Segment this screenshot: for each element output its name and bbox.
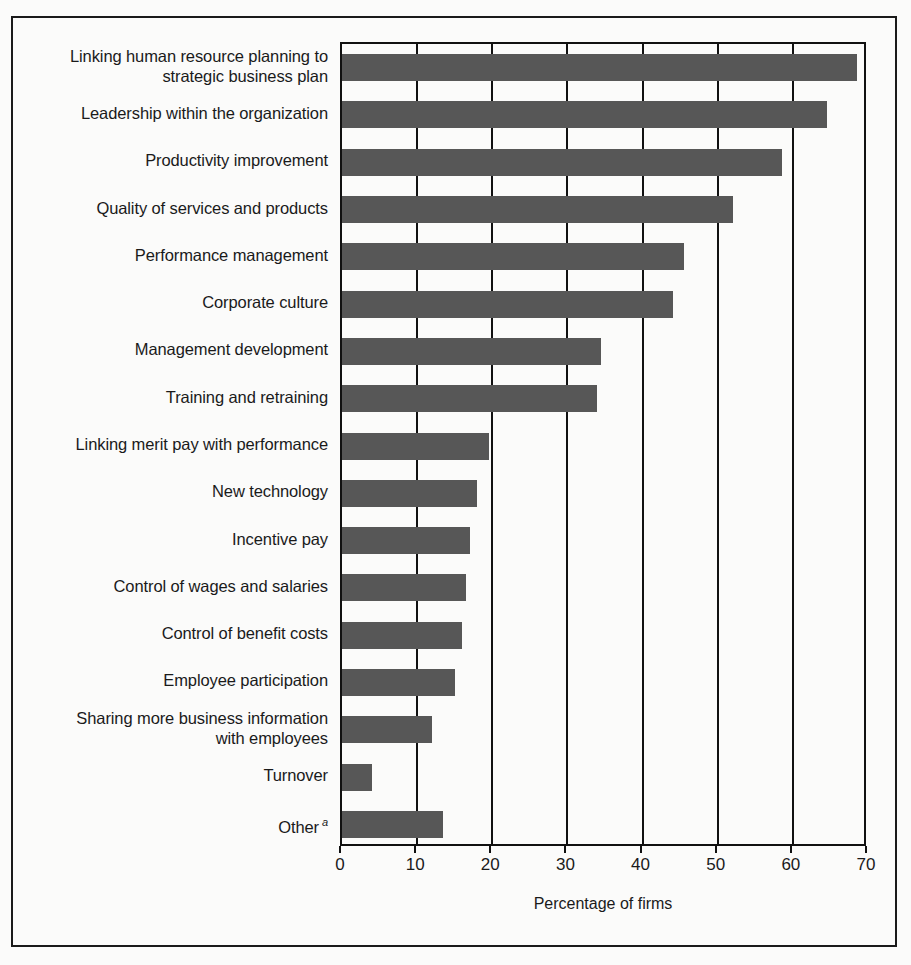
category-label: Sharing more business informationwith em…	[18, 708, 328, 748]
plot-area	[340, 42, 866, 846]
x-axis: 010203040506070	[340, 846, 866, 886]
bar	[342, 243, 684, 270]
bar	[342, 54, 857, 81]
category-label: Employee participation	[18, 670, 328, 690]
x-tick-mark	[640, 846, 642, 853]
x-tick-label: 30	[556, 855, 575, 875]
x-tick-label: 20	[481, 855, 500, 875]
bar	[342, 338, 601, 365]
x-tick-mark	[489, 846, 491, 853]
x-tick-mark	[790, 846, 792, 853]
figure-root: Linking human resource planning tostrate…	[0, 0, 911, 965]
category-label: Corporate culture	[18, 292, 328, 312]
category-label: Control of wages and salaries	[18, 576, 328, 596]
x-tick-label: 40	[631, 855, 650, 875]
bar	[342, 101, 827, 128]
category-label: Management development	[18, 339, 328, 359]
category-label: Leadership within the organization	[18, 103, 328, 123]
bar	[342, 291, 673, 318]
category-label: Control of benefit costs	[18, 623, 328, 643]
x-tick-mark	[564, 846, 566, 853]
category-label: Other a	[18, 812, 328, 837]
x-tick-label: 50	[706, 855, 725, 875]
category-label: Linking merit pay with performance	[18, 434, 328, 454]
x-tick-mark	[715, 846, 717, 853]
bar	[342, 385, 597, 412]
bar	[342, 527, 470, 554]
category-label: Performance management	[18, 245, 328, 265]
bar	[342, 196, 733, 223]
category-label: Linking human resource planning tostrate…	[18, 46, 328, 86]
x-tick-label: 0	[335, 855, 344, 875]
x-tick-label: 70	[857, 855, 876, 875]
x-axis-title: Percentage of firms	[340, 895, 866, 913]
category-label-column: Linking human resource planning tostrate…	[18, 42, 328, 846]
category-label: Quality of services and products	[18, 198, 328, 218]
bar	[342, 764, 372, 791]
x-tick-mark	[339, 846, 341, 853]
bar	[342, 433, 489, 460]
category-label: New technology	[18, 481, 328, 501]
bar	[342, 716, 432, 743]
bar	[342, 149, 782, 176]
category-label: Productivity improvement	[18, 150, 328, 170]
category-label: Training and retraining	[18, 387, 328, 407]
bar	[342, 574, 466, 601]
x-tick-mark	[865, 846, 867, 853]
x-tick-mark	[414, 846, 416, 853]
bar	[342, 669, 455, 696]
bar	[342, 480, 477, 507]
x-tick-label: 60	[781, 855, 800, 875]
bar-series	[342, 44, 864, 844]
footnote-marker: a	[319, 816, 328, 828]
category-label: Incentive pay	[18, 529, 328, 549]
x-tick-label: 10	[406, 855, 425, 875]
bar	[342, 811, 443, 838]
category-label: Turnover	[18, 765, 328, 785]
bar	[342, 622, 462, 649]
